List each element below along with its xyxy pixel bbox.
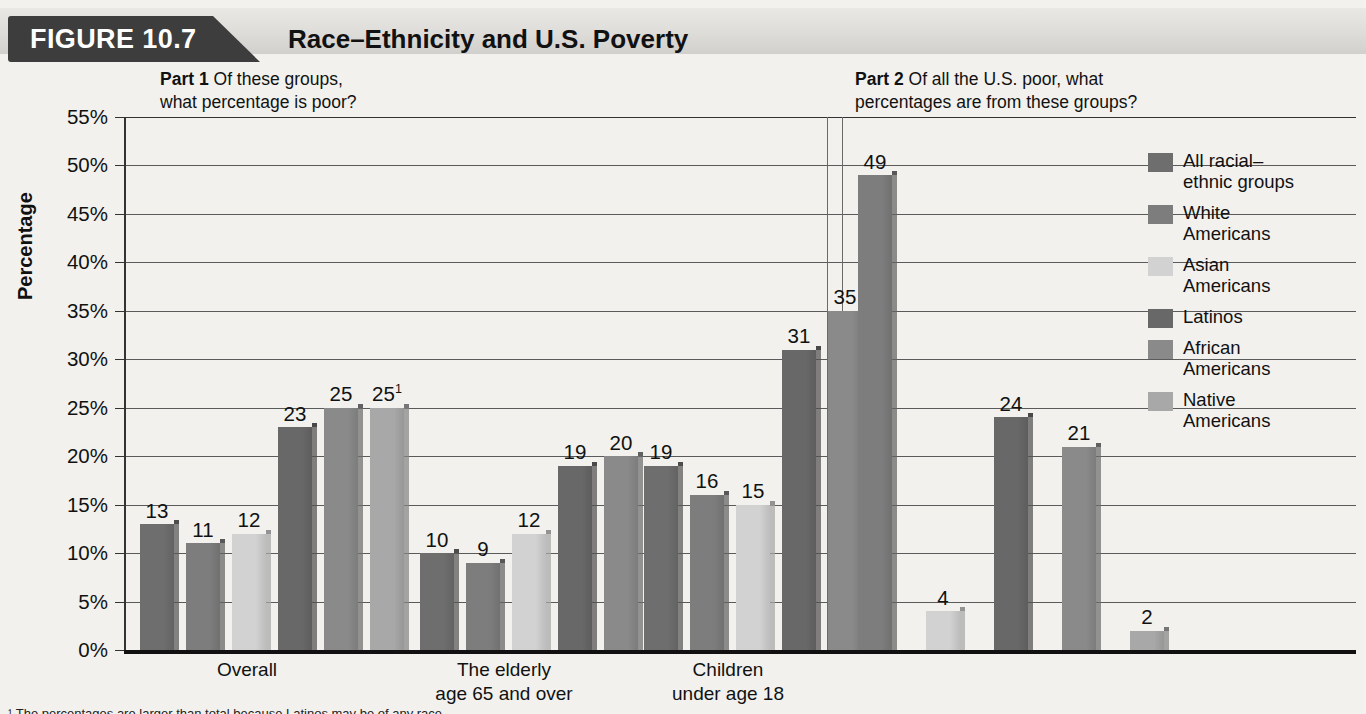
bar-face (782, 350, 816, 650)
y-axis-tick-5 (115, 602, 124, 603)
legend-item-5: NativeAmericans (1148, 389, 1348, 432)
bar-value-label: 31 (788, 326, 811, 347)
bar-face (186, 543, 220, 650)
y-axis-label-5: 5% (0, 590, 108, 614)
y-axis-label-20: 20% (0, 444, 108, 468)
figure-title: Race–Ethnicity and U.S. Poverty (288, 16, 688, 62)
bar: 4 (926, 611, 960, 650)
bar-value-label: 4 (937, 588, 948, 609)
bar: 11 (186, 543, 220, 650)
legend-swatch-icon (1148, 153, 1173, 172)
y-axis-tick-30 (115, 359, 124, 360)
bar-top-3d (500, 559, 505, 563)
y-axis-label-55: 55% (0, 105, 108, 129)
part2-question-line2: percentages are from these groups? (855, 92, 1137, 112)
bar-top-3d (960, 607, 965, 611)
bar-top-3d (174, 520, 179, 524)
y-axis-tick-45 (115, 214, 124, 215)
category-label: Overall (217, 658, 277, 682)
bar-top-3d (638, 452, 643, 456)
bar-top-3d (892, 171, 897, 175)
category-label-line1: Overall (217, 658, 277, 682)
bar-top-3d (678, 462, 683, 466)
bar-value-label: 12 (518, 510, 541, 531)
bar: 12 (512, 534, 546, 650)
bar-value-label: 35 (834, 287, 857, 308)
bar: 25 (324, 408, 358, 650)
y-axis-tick-15 (115, 505, 124, 506)
bar: 2 (1130, 631, 1164, 650)
bar-top-3d (1164, 627, 1169, 631)
legend-label: All racial–ethnic groups (1183, 150, 1294, 193)
legend-label-line1: Native (1183, 389, 1270, 410)
bar: 16 (690, 495, 724, 650)
legend-swatch-icon (1148, 309, 1173, 328)
legend-label-line1: White (1183, 202, 1270, 223)
bar: 23 (278, 427, 312, 650)
legend-item-2: AsianAmericans (1148, 254, 1348, 297)
bar-side-3d (592, 466, 597, 650)
legend-label-line2: Americans (1183, 275, 1270, 296)
bar: 9 (466, 563, 500, 650)
bar-top-3d (266, 530, 271, 534)
bar-face (828, 311, 862, 650)
bar-side-3d (1096, 447, 1101, 651)
bar-value-label: 15 (742, 481, 765, 502)
y-axis-tick-0 (115, 650, 124, 651)
bar-side-3d (174, 524, 179, 650)
bar: 13 (140, 524, 174, 650)
legend-label: NativeAmericans (1183, 389, 1270, 432)
bar: 49 (858, 175, 892, 650)
bar-top-3d (770, 501, 775, 505)
category-label: The elderlyage 65 and over (435, 658, 572, 706)
bar-top-3d (404, 404, 409, 408)
y-axis-label-15: 15% (0, 493, 108, 517)
bar-side-3d (546, 534, 551, 650)
part1-heading: Part 1 Of these groups, what percentage … (160, 68, 357, 114)
bar-side-3d (358, 408, 363, 650)
figure-number-label: FIGURE 10.7 (8, 24, 196, 55)
bar-side-3d (266, 534, 271, 650)
bar-top-3d (546, 530, 551, 534)
part1-label: Part 1 (160, 69, 209, 89)
bar-side-3d (454, 553, 459, 650)
bar: 24 (994, 417, 1028, 650)
y-axis-tick-20 (115, 456, 124, 457)
legend-label: Latinos (1183, 306, 1243, 327)
figure-header-banner: FIGURE 10.7 Race–Ethnicity and U.S. Pove… (0, 8, 1366, 54)
bar-face (370, 408, 404, 650)
legend-item-1: WhiteAmericans (1148, 202, 1348, 245)
legend-label: AsianAmericans (1183, 254, 1270, 297)
bar-side-3d (960, 611, 965, 650)
bar-face (466, 563, 500, 650)
bar-side-3d (1028, 417, 1033, 650)
bar-top-3d (816, 346, 821, 350)
y-axis-label-10: 10% (0, 541, 108, 565)
bar-face (512, 534, 546, 650)
legend-item-3: Latinos (1148, 306, 1348, 328)
bar-value-label: 11 (192, 520, 213, 541)
bar-value-label: 19 (564, 442, 587, 463)
bar-side-3d (220, 543, 225, 650)
bar-face (1130, 631, 1164, 650)
y-axis-tick-35 (115, 311, 124, 312)
bar-face (644, 466, 678, 650)
y-axis-label-35: 35% (0, 299, 108, 323)
bar: 19 (558, 466, 592, 650)
legend-label-line2: Americans (1183, 358, 1270, 379)
bar-side-3d (678, 466, 683, 650)
bar-side-3d (892, 175, 897, 650)
y-axis-label-0: 0% (0, 638, 108, 662)
bar: 19 (644, 466, 678, 650)
bar-side-3d (770, 505, 775, 650)
legend-swatch-icon (1148, 205, 1173, 224)
bar-face (736, 505, 770, 650)
bar: 20 (604, 456, 638, 650)
bar-side-3d (638, 456, 643, 650)
bar: 31 (782, 350, 816, 650)
bar-top-3d (454, 549, 459, 553)
bar-side-3d (1164, 631, 1169, 650)
bar: 21 (1062, 447, 1096, 651)
category-label-line2: under age 18 (672, 682, 784, 706)
legend-item-4: AfricanAmericans (1148, 337, 1348, 380)
